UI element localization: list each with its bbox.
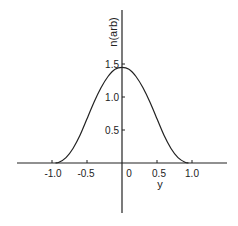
y-tick-label: 1.0 <box>105 92 119 103</box>
x-tick-label: 1.0 <box>185 168 199 179</box>
y-axis-label: n(arb) <box>107 17 119 46</box>
chart: -1.0 -0.5 0 0.5 1.0 0.5 1.0 1.5 y n(arb) <box>0 0 238 226</box>
x-tick-label: -1.0 <box>44 168 62 179</box>
x-tick-label: -0.5 <box>77 168 95 179</box>
y-tick-label: 0.5 <box>105 125 119 136</box>
x-axis-label: y <box>157 178 163 190</box>
x-tick-label: 0 <box>126 168 132 179</box>
